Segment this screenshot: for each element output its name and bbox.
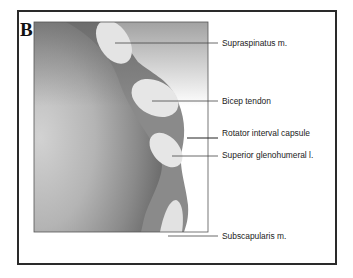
shoulder-illustration [0,0,353,278]
panel-letter: B [20,19,33,41]
label-bicep-tendon: Bicep tendon [222,96,271,106]
label-supraspinatus: Supraspinatus m. [222,38,287,48]
label-superior-glenohumeral: Superior glenohumeral l. [222,150,313,160]
label-rotator-interval-capsule: Rotator interval capsule [222,128,310,138]
label-subscapularis: Subscapularis m. [222,231,286,241]
